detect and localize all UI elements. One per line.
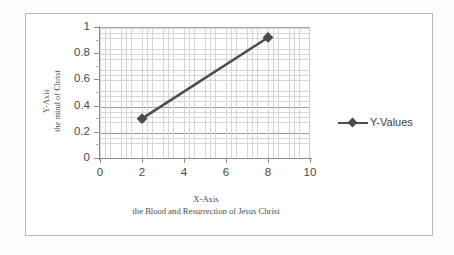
chart-legend: Y-Values (338, 116, 413, 128)
y-axis-title: Y-Axis the mind of Christ (42, 56, 70, 146)
x-axis-title: X-Axis the Blood and Resurrection of Jes… (100, 194, 312, 217)
x-tick-label: 4 (169, 166, 199, 178)
y-axis-title-line1: Y-Axis (42, 56, 53, 146)
legend-diamond-icon (348, 117, 358, 127)
x-tick-label: 8 (253, 166, 283, 178)
x-tick-label: 2 (127, 166, 157, 178)
x-tick-label: 6 (211, 166, 241, 178)
x-axis-title-line2: the Blood and Resurrection of Jesus Chri… (100, 206, 312, 218)
plot-area (100, 27, 310, 158)
legend-swatch-y-values (338, 116, 368, 128)
y-tick-minor (96, 144, 100, 145)
legend-label-y-values: Y-Values (370, 116, 413, 128)
chart-figure: 1 0.8 0.6 0.4 0.2 0 0 2 4 6 8 10 Y-Axis … (0, 0, 454, 255)
x-tick-10 (310, 158, 311, 163)
x-tick-0 (100, 158, 101, 163)
y-tick-0.4 (94, 106, 100, 107)
x-tick-label: 10 (295, 166, 325, 178)
y-tick-minor (96, 118, 100, 119)
x-tick-2 (142, 158, 143, 163)
y-tick-0.8 (94, 53, 100, 54)
x-tick-8 (268, 158, 269, 163)
y-tick-label: 1 (56, 21, 90, 33)
y-tick-0.6 (94, 79, 100, 80)
y-tick-minor (96, 92, 100, 93)
y-tick-minor (96, 66, 100, 67)
y-axis-title-line2: the mind of Christ (53, 56, 64, 146)
x-axis-title-line1: X-Axis (100, 194, 312, 206)
x-tick-4 (184, 158, 185, 163)
y-tick-1 (94, 27, 100, 28)
y-tick-label: 0 (56, 152, 90, 164)
y-tick-0.2 (94, 132, 100, 133)
y-tick-minor (96, 40, 100, 41)
y-axis-line (99, 26, 100, 160)
x-tick-6 (226, 158, 227, 163)
x-tick-label: 0 (85, 166, 115, 178)
x-axis-line (97, 158, 312, 159)
